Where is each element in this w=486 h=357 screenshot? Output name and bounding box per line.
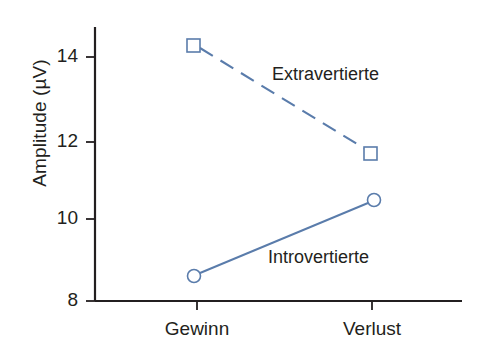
axis-spines [95, 27, 462, 301]
x-axis-ticks [197, 301, 372, 310]
line-chart: Amplitude (µV) 14 12 10 8 Gewinn Verlust… [0, 0, 486, 357]
data-point-introverts-verlust [368, 194, 381, 207]
series-line-introverts [200, 203, 368, 273]
series-extraverts [187, 39, 377, 160]
plot-area [0, 0, 486, 357]
data-point-extraverts-verlust [364, 147, 377, 160]
data-point-introverts-gewinn [188, 270, 201, 283]
series-line-extraverts [200, 48, 367, 150]
series-introverts [188, 194, 381, 283]
y-axis-ticks [86, 57, 95, 301]
data-point-extraverts-gewinn [187, 39, 200, 52]
